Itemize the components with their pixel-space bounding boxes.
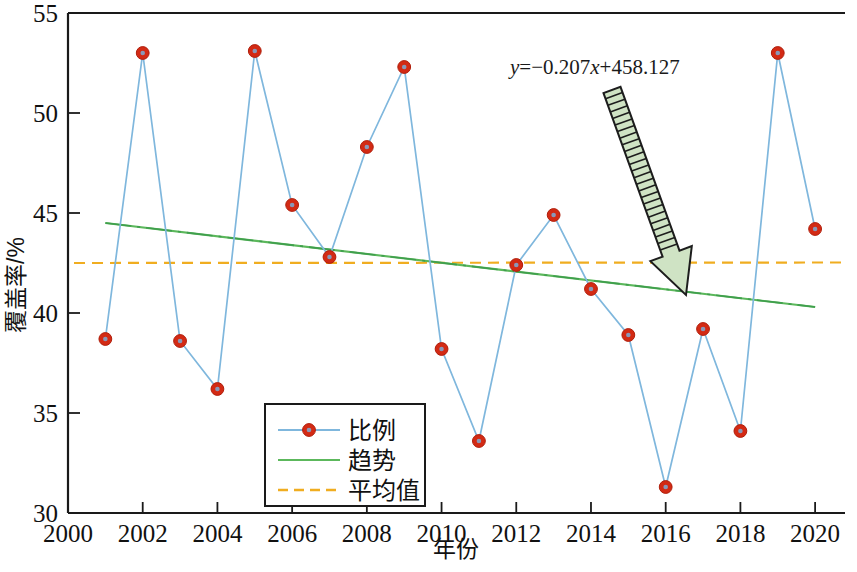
legend-item-label: 比例 [348, 417, 396, 444]
x-tick-label: 2008 [342, 520, 392, 547]
x-tick-label: 2006 [267, 520, 317, 547]
data-point-marker [136, 47, 149, 60]
y-tick-label: 45 [33, 200, 58, 227]
legend-item-label: 平均值 [348, 477, 420, 504]
data-point-marker [323, 251, 336, 264]
data-point-marker [585, 283, 598, 296]
data-point-marker [360, 141, 373, 154]
data-point-marker [734, 425, 747, 438]
legend-swatch-marker-core [307, 428, 312, 433]
y-axis-title: 覆盖率/% [3, 237, 29, 333]
data-point-marker [510, 259, 523, 272]
chart-figure: 303540455055 200020022004200620082010201… [0, 0, 857, 572]
x-tick-label: 2004 [192, 520, 243, 547]
data-point-marker [211, 383, 224, 396]
coverage-rate-line-chart: 303540455055 200020022004200620082010201… [0, 0, 857, 572]
data-point-marker [547, 209, 560, 222]
x-tick-label: 2000 [43, 520, 93, 547]
chart-legend: 比例趋势平均值 [265, 404, 425, 506]
data-point-marker [697, 323, 710, 336]
data-point-marker [286, 199, 299, 212]
x-tick-label: 2020 [790, 520, 840, 547]
mean-value-line [74, 263, 841, 264]
data-point-marker [99, 333, 112, 346]
y-tick-label: 55 [33, 0, 58, 27]
data-point-marker [174, 335, 187, 348]
data-point-marker [435, 343, 448, 356]
data-point-marker [248, 45, 261, 58]
data-point-marker [771, 47, 784, 60]
y-tick-label: 35 [33, 400, 58, 427]
data-point-marker [473, 435, 486, 448]
data-point-marker [659, 481, 672, 494]
y-tick-label: 50 [33, 100, 58, 127]
x-tick-label: 2016 [641, 520, 691, 547]
data-point-marker [398, 61, 411, 74]
x-tick-label: 2018 [715, 520, 765, 547]
x-tick-label: 2012 [491, 520, 541, 547]
y-tick-label: 40 [33, 300, 58, 327]
x-axis-title: 年份 [433, 536, 479, 562]
legend-item-label: 趋势 [348, 447, 396, 474]
data-point-marker [809, 223, 822, 236]
trend-equation-label: y=−0.207x+458.127 [508, 55, 680, 79]
data-point-marker [622, 329, 635, 342]
x-tick-label: 2014 [566, 520, 617, 547]
x-tick-label: 2002 [118, 520, 168, 547]
